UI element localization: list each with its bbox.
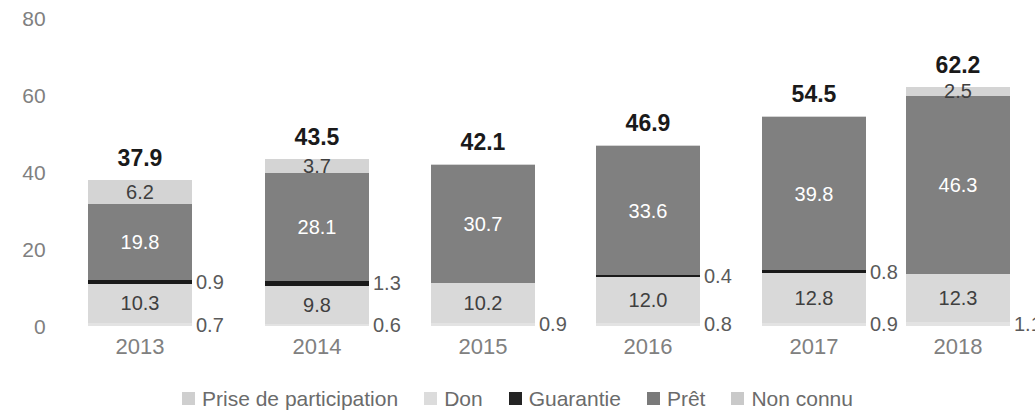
legend-item[interactable]: Don [424, 388, 483, 409]
segment-value-label: 28.1 [265, 217, 369, 237]
bar-stack: 12.346.32.5 [906, 87, 1010, 326]
bar-segment[interactable]: 2.5 [906, 87, 1010, 97]
segment-value-label: 30.7 [431, 214, 535, 234]
legend-item[interactable]: Guarantie [509, 388, 621, 409]
bar-segment[interactable]: 39.8 [762, 117, 866, 270]
bar-segment[interactable]: 12.0 [596, 277, 700, 323]
segment-value-label: 12.0 [596, 290, 700, 310]
bar-segment[interactable]: 10.2 [431, 283, 535, 322]
bar-segment[interactable]: 33.6 [596, 146, 700, 275]
x-axis-tick: 2014 [265, 336, 369, 358]
segment-value-label: 6.2 [88, 182, 192, 202]
bar-segment[interactable]: 9.8 [265, 286, 369, 324]
bar-group[interactable]: 10.230.70.942.1 [431, 164, 535, 326]
x-axis-tick: 2013 [88, 336, 192, 358]
legend-swatch-icon [182, 392, 195, 405]
bar-segment[interactable] [906, 322, 1010, 326]
x-axis-tick: 2015 [431, 336, 535, 358]
legend-label: Non connu [751, 388, 853, 409]
plot-area: 806040200 10.319.86.20.70.937.99.828.13.… [0, 0, 1035, 332]
bar-stack: 12.839.8 [762, 116, 866, 326]
segment-value-label: 39.8 [762, 184, 866, 204]
bar-stack: 10.319.86.2 [88, 180, 192, 326]
bar-segment[interactable]: 19.8 [88, 204, 192, 280]
bar-segment[interactable] [431, 164, 535, 165]
bar-segment[interactable] [762, 270, 866, 273]
segment-value-label: 10.2 [431, 293, 535, 313]
bar-segment[interactable] [88, 323, 192, 326]
bar-group[interactable]: 12.033.60.80.446.9 [596, 145, 700, 326]
bar-segment[interactable] [596, 323, 700, 326]
legend-swatch-icon [731, 392, 744, 405]
bar-total-label: 54.5 [762, 83, 866, 106]
legend-item[interactable]: Non connu [731, 388, 853, 409]
legend-swatch-icon [424, 392, 437, 405]
legend-swatch-icon [647, 392, 660, 405]
legend-label: Guarantie [529, 388, 621, 409]
legend-item[interactable]: Prise de participation [182, 388, 398, 409]
bar-total-label: 46.9 [596, 112, 700, 135]
segment-value-label: 12.3 [906, 288, 1010, 308]
segment-callout-label: 0.9 [196, 272, 224, 292]
bar-total-label: 42.1 [431, 131, 535, 154]
bars-layer: 10.319.86.20.70.937.99.828.13.70.61.343.… [0, 0, 1035, 332]
bar-segment[interactable]: 46.3 [906, 96, 1010, 274]
segment-value-label: 19.8 [88, 232, 192, 252]
segment-value-label: 10.3 [88, 293, 192, 313]
segment-value-label: 9.8 [265, 295, 369, 315]
stacked-bar-chart: 806040200 10.319.86.20.70.937.99.828.13.… [0, 0, 1035, 415]
segment-value-label: 12.8 [762, 288, 866, 308]
bar-segment[interactable]: 12.8 [762, 273, 866, 322]
x-axis: 201320142015201620172018 [0, 332, 1035, 372]
bar-stack: 12.033.6 [596, 145, 700, 326]
legend-swatch-icon [509, 392, 522, 405]
segment-value-label: 3.7 [265, 156, 369, 176]
x-axis-tick: 2017 [762, 336, 866, 358]
bar-segment[interactable] [431, 323, 535, 326]
legend-label: Prise de participation [202, 388, 398, 409]
bar-stack: 10.230.7 [431, 164, 535, 326]
bar-segment[interactable]: 10.3 [88, 284, 192, 324]
segment-callout-label: 1.3 [373, 273, 401, 293]
bar-segment[interactable] [762, 323, 866, 326]
bar-group[interactable]: 12.346.32.51.162.2 [906, 87, 1010, 326]
bar-total-label: 43.5 [265, 126, 369, 149]
x-axis-tick: 2018 [906, 336, 1010, 358]
x-axis-tick: 2016 [596, 336, 700, 358]
bar-total-label: 37.9 [88, 147, 192, 170]
segment-callout-label: 1.1 [1014, 314, 1035, 334]
bar-group[interactable]: 10.319.86.20.70.937.9 [88, 180, 192, 326]
legend-label: Prêt [667, 388, 706, 409]
bar-segment[interactable]: 3.7 [265, 159, 369, 173]
bar-group[interactable]: 12.839.80.90.854.5 [762, 116, 866, 326]
bar-segment[interactable]: 6.2 [88, 180, 192, 204]
segment-callout-label: 0.8 [870, 262, 898, 282]
bar-total-label: 62.2 [906, 54, 1010, 77]
bar-segment[interactable] [265, 324, 369, 326]
segment-callout-label: 0.4 [704, 266, 732, 286]
bar-segment[interactable]: 30.7 [431, 165, 535, 283]
legend-item[interactable]: Prêt [647, 388, 706, 409]
segment-value-label: 46.3 [906, 175, 1010, 195]
bar-segment[interactable] [265, 281, 369, 286]
segment-value-label: 33.6 [596, 201, 700, 221]
bar-group[interactable]: 9.828.13.70.61.343.5 [265, 159, 369, 326]
bar-segment[interactable] [596, 275, 700, 277]
bar-segment[interactable]: 28.1 [265, 173, 369, 281]
legend-label: Don [444, 388, 483, 409]
bar-segment[interactable] [762, 116, 866, 117]
bar-segment[interactable] [88, 280, 192, 283]
chart-legend: Prise de participationDonGuarantiePrêtNo… [0, 382, 1035, 415]
bar-stack: 9.828.13.7 [265, 159, 369, 326]
bar-segment[interactable]: 12.3 [906, 274, 1010, 321]
